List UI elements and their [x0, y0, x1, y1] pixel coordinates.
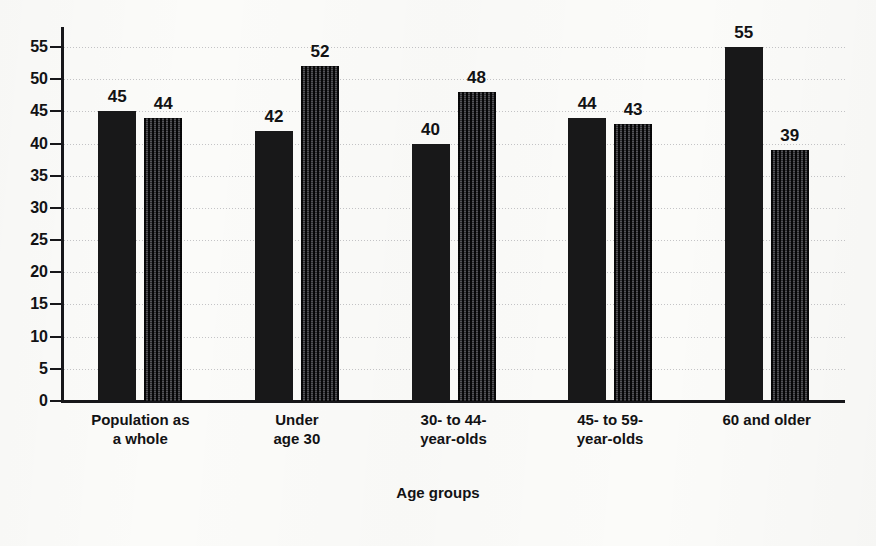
bar-value-label: 43 — [603, 100, 663, 120]
bar-value-label: 52 — [290, 42, 350, 62]
y-axis-tick-label: 0 — [4, 392, 48, 410]
bar-series-2-4 — [771, 150, 809, 401]
y-axis-tick-label: 45 — [4, 102, 48, 120]
y-axis-tick-label: 55 — [4, 38, 48, 56]
bar-value-label: 48 — [447, 68, 507, 88]
y-axis-tick-label: 50 — [4, 70, 48, 88]
category-label-line2: year-olds — [532, 429, 689, 448]
bar-value-label: 42 — [244, 107, 304, 127]
bar-series-2-2 — [458, 92, 496, 401]
bar-series-1-1 — [255, 131, 293, 401]
bar-series-1-2 — [412, 144, 450, 401]
bar-series-1-3 — [568, 118, 606, 401]
bar-series-2-1 — [301, 66, 339, 401]
y-axis-tick-label: 5 — [4, 360, 48, 378]
category-label-line1: 60 and older — [688, 410, 845, 429]
bar-series-2-0 — [144, 118, 182, 401]
bar-series-1-0 — [98, 111, 136, 401]
x-axis-category-label: Underage 30 — [219, 410, 376, 448]
y-axis-tick-label: 25 — [4, 231, 48, 249]
category-label-line2: year-olds — [375, 429, 532, 448]
y-axis-tick-label: 10 — [4, 328, 48, 346]
bar-series-2-3 — [614, 124, 652, 401]
y-axis-line — [61, 27, 64, 403]
bar-value-label: 44 — [133, 94, 193, 114]
category-label-line2: a whole — [62, 429, 219, 448]
x-axis-title: Age groups — [0, 484, 876, 501]
bar-chart: 0510152025303540455055 45424044554452484… — [0, 0, 876, 546]
category-label-line2: age 30 — [219, 429, 376, 448]
bar-value-label: 39 — [760, 126, 820, 146]
bar-value-label: 40 — [401, 120, 461, 140]
category-label-line1: 30- to 44- — [375, 410, 532, 429]
y-axis-tick-label: 30 — [4, 199, 48, 217]
bar-series-1-4 — [725, 47, 763, 401]
category-label-line1: Under — [219, 410, 376, 429]
x-axis-category-label: 30- to 44-year-olds — [375, 410, 532, 448]
category-label-line1: Population as — [62, 410, 219, 429]
y-axis-tick-label: 40 — [4, 135, 48, 153]
x-axis-category-label: 60 and older — [688, 410, 845, 429]
y-axis-tick-label: 15 — [4, 295, 48, 313]
bar-value-label: 55 — [714, 23, 774, 43]
y-axis-tick-label: 35 — [4, 167, 48, 185]
page-background: 0510152025303540455055 45424044554452484… — [0, 0, 876, 546]
x-axis-category-label: Population asa whole — [62, 410, 219, 448]
category-label-line1: 45- to 59- — [532, 410, 689, 429]
y-axis-tick-label: 20 — [4, 263, 48, 281]
x-axis-category-label: 45- to 59-year-olds — [532, 410, 689, 448]
